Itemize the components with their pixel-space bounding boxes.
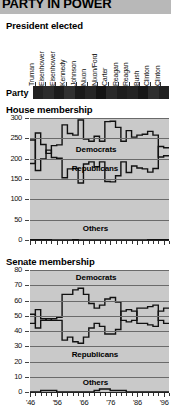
party-in-power-bar — [33, 86, 169, 99]
party-segment — [43, 86, 53, 99]
house-plot-area — [30, 118, 169, 240]
x-axis-tick-label: '86 — [133, 398, 142, 407]
y-axis-tick-mark — [25, 301, 29, 302]
x-axis-tick — [89, 393, 90, 396]
y-axis-tick-label: 150 — [0, 174, 22, 183]
gridline — [30, 179, 169, 180]
y-axis-tick-mark — [25, 331, 29, 332]
x-axis-tick — [105, 393, 106, 396]
x-axis-tick — [51, 393, 52, 396]
y-axis-tick-label: 50 — [0, 311, 22, 320]
y-axis-tick-label: 200 — [0, 154, 22, 163]
president-name: Eisenhower — [49, 51, 56, 86]
y-axis-tick-label: 60 — [0, 296, 22, 305]
y-axis-tick-mark — [25, 377, 29, 378]
x-axis-tick — [126, 393, 127, 396]
president-name: Eisenhower — [38, 51, 45, 86]
party-segment — [54, 86, 64, 99]
y-axis-tick-label: 250 — [0, 133, 22, 142]
x-axis-tick — [121, 393, 122, 396]
x-axis-tick — [67, 241, 68, 244]
y-axis-tick-mark — [25, 392, 29, 393]
x-axis-tick — [35, 393, 36, 396]
x-axis-tick — [78, 241, 79, 244]
gridline — [30, 220, 169, 221]
gridline — [30, 199, 169, 200]
x-axis-tick — [57, 393, 58, 397]
house-republicans-label: Republicans — [72, 164, 118, 173]
x-axis-tick — [169, 393, 170, 396]
party-segment — [96, 86, 106, 99]
x-axis-tick-label: '76 — [106, 398, 115, 407]
x-axis-tick — [57, 241, 58, 245]
x-axis-tick — [110, 393, 111, 397]
x-axis-tick — [105, 241, 106, 244]
x-axis-tick — [89, 241, 90, 244]
x-axis-tick — [100, 241, 101, 244]
x-axis-tick — [137, 241, 138, 245]
house-others-label: Others — [83, 224, 108, 233]
y-axis-tick-mark — [25, 220, 29, 221]
x-axis-tick — [148, 393, 149, 396]
party-segment — [138, 86, 148, 99]
x-axis-tick — [73, 393, 74, 396]
y-axis-tick-label: 100 — [0, 194, 22, 203]
y-axis-tick-label: 20 — [0, 357, 22, 366]
gridline — [30, 301, 169, 302]
party-segment — [75, 86, 85, 99]
x-axis-tick — [62, 241, 63, 244]
x-axis-tick — [169, 241, 170, 244]
x-axis-tick — [30, 241, 31, 245]
party-segment — [159, 86, 169, 99]
x-axis-tick — [153, 241, 154, 244]
y-axis-tick-mark — [25, 240, 29, 241]
senate-democrats-label: Democrats — [76, 273, 116, 282]
x-axis-tick — [153, 393, 154, 396]
x-axis-tick — [142, 393, 143, 396]
x-axis-tick — [158, 241, 159, 244]
x-axis-tick — [94, 393, 95, 396]
x-axis-tick — [164, 241, 165, 245]
senate-plot-area — [30, 270, 169, 392]
y-axis-tick-mark — [25, 179, 29, 180]
party-segment — [106, 86, 116, 99]
x-axis-tick — [73, 241, 74, 244]
x-axis-tick — [116, 393, 117, 396]
gridline — [30, 346, 169, 347]
y-axis-tick-mark — [25, 199, 29, 200]
x-axis-tick — [116, 241, 117, 244]
x-axis-tick — [83, 241, 84, 245]
x-axis-tick — [41, 241, 42, 244]
president-names-list: TrumanEisenhowerEisenhowerKennedyJohnson… — [33, 34, 171, 86]
y-axis-tick-mark — [25, 316, 29, 317]
gridline — [30, 316, 169, 317]
x-axis-tick — [46, 241, 47, 244]
y-axis-tick-mark — [25, 362, 29, 363]
x-axis-tick — [35, 241, 36, 244]
x-axis-tick — [67, 393, 68, 396]
x-axis-tick — [132, 393, 133, 396]
house-democrats-label: Democrats — [76, 145, 116, 154]
x-axis-tick — [137, 393, 138, 397]
party-segment — [127, 86, 137, 99]
gridline — [30, 159, 169, 160]
series-line-republicans — [30, 308, 169, 343]
y-axis-tick-mark — [25, 285, 29, 286]
senate-republicans-label: Republicans — [72, 350, 118, 359]
y-axis-tick-label: 10 — [0, 372, 22, 381]
page-title: PARTY IN POWER — [2, 0, 111, 11]
x-axis-tick — [148, 241, 149, 244]
y-axis-tick-label: 50 — [0, 215, 22, 224]
title-band: PARTY IN POWER — [0, 0, 171, 14]
x-axis-tick — [41, 393, 42, 396]
x-axis-tick — [132, 241, 133, 244]
party-segment — [85, 86, 95, 99]
party-row-label: Party — [6, 88, 29, 98]
y-axis-tick-label: 300 — [0, 113, 22, 122]
gridline — [30, 270, 169, 271]
party-segment — [64, 86, 74, 99]
gridline — [30, 118, 169, 119]
president-section-heading: President elected — [6, 20, 83, 31]
x-axis-tick — [30, 393, 31, 397]
y-axis-tick-label: 80 — [0, 265, 22, 274]
